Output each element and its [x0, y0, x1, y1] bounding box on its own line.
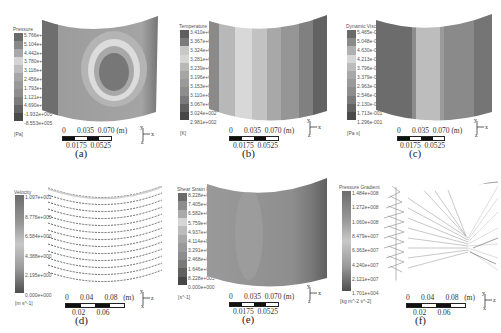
color-bar: [14, 33, 23, 121]
color-bar: [347, 30, 356, 120]
scale-labels-bottom: 0.0175 0.0525: [400, 141, 445, 150]
figure-caption: (a): [75, 147, 87, 159]
panel-dynamic-viscosity: Dynamic Viscosity 5.465e-001 5.048e-001 …: [334, 0, 501, 166]
axis-triad: y x z: [140, 124, 156, 146]
axis-triad: y x z: [307, 117, 323, 139]
color-bar: [342, 191, 351, 291]
legend-unit: [Pa]: [14, 131, 23, 137]
contour-surface: [38, 14, 160, 124]
color-bar: [178, 193, 187, 285]
legend-tick: 6.363e+007: [352, 248, 379, 253]
scale-labels-top: 0 0.035 0.070 (m): [229, 292, 294, 301]
panel-pressure-gradient: Pressure Gradient 1.484e+008 1.272e+008 …: [334, 166, 501, 332]
legend-tick: 2.121e+007: [352, 277, 379, 282]
legend-unit: [K]: [180, 130, 186, 136]
axis-triad: y x z: [474, 117, 490, 139]
legend-tick: 1.701e+004: [352, 291, 379, 296]
contour-surface: [372, 12, 494, 124]
figure-caption: (f): [415, 314, 426, 326]
panel-pressure: Pressure 5.766e+006 5.104e+006 4.442e+00…: [0, 0, 167, 166]
legend-tick: 1.484e+008: [352, 191, 379, 196]
color-bar: [15, 195, 24, 293]
axis-triad: y z x: [482, 290, 498, 312]
panel-velocity: Velocity 1.097e+001 8.776e+000 6.584e+00…: [0, 166, 167, 332]
streamline-plot: [46, 186, 164, 294]
color-bar: [180, 30, 189, 120]
scale-labels-top: 0 0.035 0.070 (m): [62, 126, 127, 135]
contour-surface: [205, 176, 329, 290]
legend-unit: [Pa s]: [347, 130, 360, 136]
legend-unit: [s^-1]: [178, 294, 190, 300]
figure-caption: (e): [242, 313, 254, 325]
figure-caption: (d): [75, 314, 88, 326]
scale-labels-bottom: 0.0175 0.0525: [66, 141, 111, 150]
scale-labels-top: 0 0.035 0.070 (m): [229, 126, 294, 135]
legend-tick: 4.240e+007: [352, 263, 379, 268]
scale-labels-bottom: 0.0175 0.0525: [233, 307, 278, 316]
scale-labels-top: 0 0.035 0.070 (m): [397, 126, 462, 135]
legend-tick: 8.479e+007: [352, 234, 379, 239]
panel-temperature: Temperature 3.410e+002 3.367e+002 3.324e…: [167, 0, 334, 166]
figure-caption: (c): [409, 147, 421, 159]
legend-unit: [kg m^-2 s^-2]: [340, 298, 371, 304]
axis-triad: y x z: [307, 283, 323, 305]
axis-triad: y z x: [140, 288, 156, 310]
contour-surface: [207, 13, 329, 123]
vector-plot: [378, 178, 500, 290]
legend-unit: [m s^-1]: [15, 300, 33, 306]
panel-shear-strain-rate: Shear Strain Rate 8.228e+004 7.405e+004 …: [167, 166, 334, 332]
scale-labels-top: 0 0.04 0.08 (m): [406, 293, 475, 302]
legend-tick: 1.060e+008: [352, 220, 379, 225]
scale-labels-top: 0 0.04 0.08 (m): [65, 293, 134, 302]
legend-tick: 1.272e+008: [352, 205, 379, 210]
figure-caption: (b): [242, 147, 255, 159]
scale-labels-bottom: 0.0175 0.0525: [233, 141, 278, 150]
